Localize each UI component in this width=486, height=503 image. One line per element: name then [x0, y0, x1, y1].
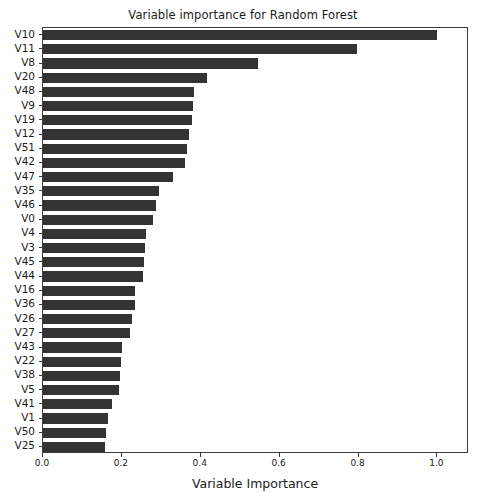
bar-row [43, 328, 467, 338]
y-tick-label-v43: V43 [14, 341, 35, 352]
bar-row [43, 357, 467, 367]
x-tick-mark [279, 453, 280, 457]
bar-v0 [43, 215, 153, 225]
bar-v42 [43, 158, 185, 168]
bar-row [43, 101, 467, 111]
bar-row [43, 342, 467, 352]
y-tick-label-v27: V27 [14, 327, 35, 338]
y-axis-labels: V10V11V8V20V48V9V19V12V51V42V47V35V46V0V… [0, 27, 42, 453]
y-tick-label-v9: V9 [21, 100, 35, 111]
bar-v11 [43, 44, 357, 54]
bar-row [43, 257, 467, 267]
y-tick-label-v50: V50 [14, 426, 35, 437]
y-tick-label-v51: V51 [14, 142, 35, 153]
bar-row [43, 399, 467, 409]
bar-row [43, 87, 467, 97]
bar-v10 [43, 30, 437, 40]
bar-v47 [43, 172, 173, 182]
bar-v38 [43, 371, 120, 381]
x-tick-mark [358, 453, 359, 457]
y-tick-label-v47: V47 [14, 171, 35, 182]
bar-v4 [43, 229, 146, 239]
bar-row [43, 442, 467, 452]
bar-v12 [43, 129, 189, 139]
y-tick-label-v45: V45 [14, 256, 35, 267]
bar-v22 [43, 357, 121, 367]
bar-row [43, 371, 467, 381]
y-tick-label-v20: V20 [14, 71, 35, 82]
bar-v25 [43, 442, 105, 452]
bars-layer [43, 28, 467, 452]
y-tick-label-v1: V1 [21, 412, 35, 423]
x-tick-label: 0.8 [350, 458, 364, 468]
y-tick-label-v5: V5 [21, 384, 35, 395]
bar-row [43, 129, 467, 139]
bar-v43 [43, 342, 122, 352]
y-tick-label-v36: V36 [14, 298, 35, 309]
y-tick-label-v48: V48 [14, 85, 35, 96]
bar-v36 [43, 300, 135, 310]
y-tick-label-v41: V41 [14, 398, 35, 409]
y-tick-label-v19: V19 [14, 114, 35, 125]
x-axis-title: Variable Importance [42, 476, 468, 491]
bar-v50 [43, 428, 106, 438]
bar-v8 [43, 58, 258, 68]
bar-v41 [43, 399, 112, 409]
bar-row [43, 428, 467, 438]
x-tick-label: 1.0 [429, 458, 443, 468]
bar-row [43, 30, 467, 40]
bar-v9 [43, 101, 193, 111]
bar-row [43, 44, 467, 54]
x-tick-label: 0.2 [114, 458, 128, 468]
y-tick-label-v46: V46 [14, 199, 35, 210]
bar-row [43, 229, 467, 239]
bar-v27 [43, 328, 130, 338]
bar-row [43, 186, 467, 196]
bar-v20 [43, 73, 207, 83]
bar-row [43, 115, 467, 125]
y-tick-label-v11: V11 [14, 43, 35, 54]
x-tick-mark [121, 453, 122, 457]
bar-row [43, 200, 467, 210]
bar-v3 [43, 243, 145, 253]
y-tick-label-v44: V44 [14, 270, 35, 281]
y-tick-label-v3: V3 [21, 242, 35, 253]
bar-row [43, 286, 467, 296]
y-tick-label-v16: V16 [14, 284, 35, 295]
bar-v46 [43, 200, 156, 210]
bar-row [43, 243, 467, 253]
y-tick-label-v26: V26 [14, 313, 35, 324]
bar-v48 [43, 87, 194, 97]
bar-row [43, 314, 467, 324]
y-tick-label-v38: V38 [14, 369, 35, 380]
bar-v45 [43, 257, 144, 267]
y-tick-label-v35: V35 [14, 185, 35, 196]
x-tick-mark [200, 453, 201, 457]
x-tick-label: 0.4 [193, 458, 207, 468]
x-axis-ticks: 0.00.20.40.60.81.0 [42, 453, 468, 477]
plot-area [42, 27, 468, 453]
bar-row [43, 158, 467, 168]
bar-row [43, 172, 467, 182]
bar-row [43, 73, 467, 83]
y-tick-label-v8: V8 [21, 57, 35, 68]
x-tick-mark [42, 453, 43, 457]
bar-v35 [43, 186, 159, 196]
y-tick-label-v42: V42 [14, 156, 35, 167]
x-tick-mark [436, 453, 437, 457]
x-tick-label: 0.0 [35, 458, 49, 468]
chart-figure: Variable importance for Random Forest V1… [0, 0, 486, 503]
y-tick-label-v22: V22 [14, 355, 35, 366]
bar-row [43, 144, 467, 154]
bar-row [43, 300, 467, 310]
bar-v5 [43, 385, 119, 395]
chart-title: Variable importance for Random Forest [0, 8, 486, 22]
bar-row [43, 385, 467, 395]
bar-v16 [43, 286, 135, 296]
bar-v1 [43, 413, 108, 423]
bar-row [43, 58, 467, 68]
bar-v19 [43, 115, 192, 125]
y-tick-label-v4: V4 [21, 227, 35, 238]
y-tick-label-v25: V25 [14, 440, 35, 451]
bar-row [43, 215, 467, 225]
